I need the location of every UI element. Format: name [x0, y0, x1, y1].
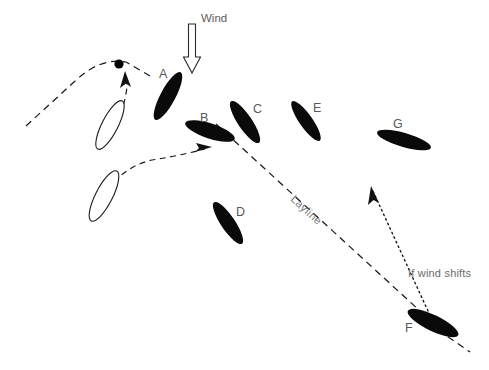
wind-shift-label: If wind shifts — [408, 267, 472, 279]
wind-shift-dotted-line — [372, 189, 428, 311]
boat-ghost-lower — [84, 167, 125, 225]
boat-ghost-upper — [91, 97, 130, 152]
boat-e-label: E — [313, 101, 322, 115]
boat-e-group: E — [287, 98, 325, 145]
boat-b-group: B — [183, 111, 237, 146]
wind-shift-group: If wind shifts — [368, 186, 472, 311]
mark-approach-dashed-line — [26, 61, 150, 126]
windward-mark-dot — [114, 59, 123, 68]
boat-b-hull — [183, 116, 237, 146]
ghost-boats — [84, 97, 130, 224]
tack-arrowhead-to-mark — [120, 71, 131, 88]
layline-dashed-line — [216, 124, 432, 322]
wind-arrow-icon — [184, 24, 201, 73]
boat-a-hull — [149, 69, 188, 124]
boat-g-group: G — [375, 117, 433, 154]
boat-d-label: D — [236, 205, 245, 219]
boat-a-label: A — [159, 67, 168, 81]
layline-label: Layline — [289, 193, 325, 227]
tack-arrowhead-to-boat-b — [195, 143, 212, 152]
boat-c-label: C — [253, 102, 262, 116]
boat-f-group: F — [404, 304, 461, 343]
boat-g-label: G — [393, 117, 403, 131]
wind-arrow-group: Wind — [184, 12, 228, 73]
boat-a-group: A — [149, 67, 188, 123]
boat-b-label: B — [200, 111, 209, 125]
wind-label: Wind — [201, 12, 227, 24]
boat-d-group: D — [208, 198, 248, 247]
layline-group: Layline — [216, 124, 432, 322]
diagram-svg: Layline If wind shifts Wind A — [0, 0, 489, 370]
boat-f-label: F — [405, 321, 413, 335]
sailing-diagram-canvas: Layline If wind shifts Wind A — [0, 0, 489, 370]
boat-g-hull — [375, 126, 433, 155]
tack-curve-to-boat-b — [114, 149, 205, 182]
